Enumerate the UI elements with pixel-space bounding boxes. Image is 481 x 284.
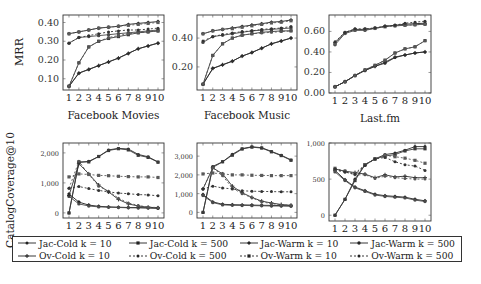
x-tick-label: 7 [258,92,264,103]
series-line [68,42,160,88]
x-tick-label: 2 [210,220,216,231]
x-tick-label: 1 [200,220,206,231]
x-tick-label: 10 [419,223,432,234]
x-tick-label: 8 [402,223,408,234]
legend-label: Jac-Warm k = 10 [261,238,339,249]
chart-panel-2: 123456789100.200.40Facebook Music [172,15,298,121]
series-line [334,156,427,176]
x-tick-label: 4 [95,92,101,103]
legend-line-marker-icon [239,252,259,260]
x-tick-label: 10 [152,92,165,103]
series-line [333,168,427,202]
x-tick-label: 2 [76,92,82,103]
legend-row-2: Ov-Cold k = 10Ov-Cold k = 500Ov-Warm k =… [13,250,461,263]
series-line [334,169,427,181]
x-tick-label: 7 [125,92,131,103]
chart-panel-4: 1234567891001,0002,000 [40,143,164,231]
x-tick-label: 6 [382,95,388,106]
x-tick-label: 8 [135,220,141,231]
legend-label: Jac-Cold k = 500 [150,238,228,249]
x-tick-label: 3 [219,92,225,103]
x-tick-label: 6 [382,223,388,234]
series-line [334,145,427,217]
series-line [67,41,160,88]
series-line [333,50,427,89]
x-tick-label: 2 [76,220,82,231]
chart-panel-6: 1234567891005001,000 [306,140,431,234]
y-tick-label: 0.30 [38,35,59,46]
legend-label: Ov-Warm k = 500 [371,250,453,261]
plot-frame [63,15,164,90]
x-tick-label: 4 [362,95,368,106]
x-tick-label: 9 [278,92,284,103]
series-line [201,36,293,86]
y-tick-label: 0.20 [172,61,193,72]
x-tick-label: 8 [402,95,408,106]
series-line [201,171,292,177]
x-tick-label: 7 [392,223,398,234]
series-line [334,20,427,44]
x-tick-label: 2 [342,223,348,234]
x-tick-label: 3 [219,220,225,231]
x-tick-label: 5 [105,220,111,231]
x-tick-label: 3 [86,220,92,231]
x-tick-label: 6 [249,220,255,231]
x-tick-label: 5 [239,220,245,231]
x-tick-label: 9 [145,220,151,231]
x-tick-label: 1 [200,92,206,103]
x-tick-label: 8 [135,92,141,103]
y-tick-label: 0 [321,212,325,220]
x-tick-label: 8 [268,92,274,103]
x-tick-label: 3 [352,95,358,106]
series-line [68,27,160,45]
chart-panel-3: 123456789100.000.200.400.60Last.fm [304,15,432,124]
x-axis-title: Last.fm [360,112,400,124]
x-tick-label: 4 [95,220,101,231]
legend-item: Ov-Warm k = 10 [239,250,350,261]
series-line [202,185,293,194]
x-tick-label: 4 [229,220,235,231]
y-tick-label: 1,000 [40,180,59,188]
x-tick-label: 10 [419,95,432,106]
legend-label: Jac-Warm k = 500 [371,238,455,249]
legend-line-marker-icon [17,252,37,260]
y-tick-label: 0.60 [304,25,325,36]
y-tick-label: 0.00 [304,87,325,98]
legend-line-marker-icon [349,252,369,260]
legend-line-marker-icon [17,239,37,247]
legend-item: Ov-Warm k = 500 [349,250,461,261]
x-tick-label: 2 [342,95,348,106]
row-ylabel-mrr: MRR [13,37,26,66]
chart-panel-5: 1234567891001,0002,0003,000 [174,143,297,231]
y-tick-label: 0.40 [172,32,193,43]
legend-label: Ov-Warm k = 10 [261,250,337,261]
y-tick-label: 0 [55,210,59,218]
x-tick-label: 6 [115,92,121,103]
legend-line-marker-icon [128,239,148,247]
x-tick-label: 9 [145,92,151,103]
legend-item: Jac-Warm k = 500 [349,238,461,249]
series-line [334,50,427,88]
x-tick-label: 3 [352,223,358,234]
legend-label: Ov-Cold k = 10 [39,250,110,261]
series-line [202,25,293,42]
series-line [67,20,160,36]
row-ylabel-catalog-coverage: CatalogCoverage@10 [4,132,16,248]
series-line [67,28,159,45]
chart-grid: 123456789100.100.200.300.40Facebook Movi… [38,15,432,234]
y-tick-label: 0.40 [38,17,59,28]
x-tick-label: 8 [268,220,274,231]
x-tick-label: 4 [229,92,235,103]
series-line [333,167,427,180]
series-line [333,23,426,47]
series-line [333,23,426,46]
x-tick-label: 5 [372,95,378,106]
series-line [333,39,426,88]
x-axis-title: Facebook Movies [68,109,160,121]
legend-line-marker-icon [349,239,369,247]
legend-item: Jac-Cold k = 10 [13,238,128,249]
legend-line-marker-icon [239,239,259,247]
y-tick-label: 500 [313,176,325,184]
x-axis-title: Facebook Music [204,109,290,121]
x-tick-label: 2 [210,92,216,103]
